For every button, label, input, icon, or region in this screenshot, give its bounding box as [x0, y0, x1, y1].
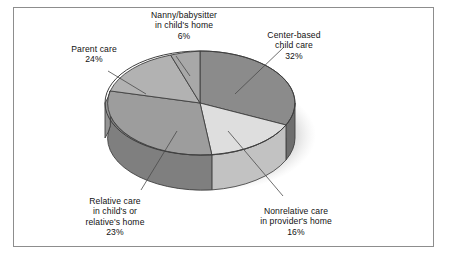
slice-label-nonrelative-value: 16%: [228, 227, 364, 237]
slice-label-relative-line1: Relative care: [52, 196, 178, 206]
slice-label-center-based-value: 32%: [234, 51, 354, 61]
slice-label-nonrelative-line2: in provider's home: [228, 216, 364, 226]
slice-label-nanny-line1: Nanny/babysitter: [114, 10, 254, 20]
slice-label-nanny-line2: in child's home: [114, 20, 254, 30]
slice-label-nanny: Nanny/babysitter in child's home 6%: [114, 10, 254, 41]
slice-label-nonrelative-line1: Nonrelative care: [228, 206, 364, 216]
pie-chart-figure: Nanny/babysitter in child's home 6% Cent…: [0, 0, 455, 264]
slice-label-center-based-line1: Center-based: [234, 30, 354, 40]
slice-label-parent-line1: Parent care: [42, 44, 146, 54]
slice-label-nanny-value: 6%: [114, 31, 254, 41]
slice-label-parent-value: 24%: [42, 54, 146, 64]
slice-label-parent: Parent care 24%: [42, 44, 146, 65]
slice-label-center-based-line2: child care: [234, 40, 354, 50]
slice-label-relative-value: 23%: [52, 227, 178, 237]
slice-label-nonrelative: Nonrelative care in provider's home 16%: [228, 206, 364, 237]
slice-label-relative-line2: in child's or: [52, 206, 178, 216]
slice-label-relative: Relative care in child's or relative's h…: [52, 196, 178, 238]
slice-label-center-based: Center-based child care 32%: [234, 30, 354, 61]
slice-label-relative-line3: relative's home: [52, 217, 178, 227]
